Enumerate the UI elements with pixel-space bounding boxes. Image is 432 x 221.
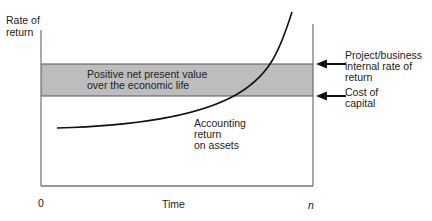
band-label-line2: over the economic life	[87, 79, 189, 91]
cost-of-capital-arrow-icon	[316, 92, 346, 101]
coc-label-line2: capital	[345, 97, 375, 109]
chart-canvas	[0, 0, 432, 221]
irr-arrow-icon	[316, 60, 346, 69]
curve-label-line3: on assets	[194, 139, 239, 151]
irr-label-line3: return	[345, 71, 372, 83]
x-tick-zero: 0	[38, 197, 44, 209]
y-axis-label-line2: return	[6, 26, 33, 38]
x-axis-label: Time	[162, 198, 185, 210]
x-tick-end: n	[308, 199, 314, 211]
y-axis-label-line1: Rate of	[6, 14, 40, 26]
